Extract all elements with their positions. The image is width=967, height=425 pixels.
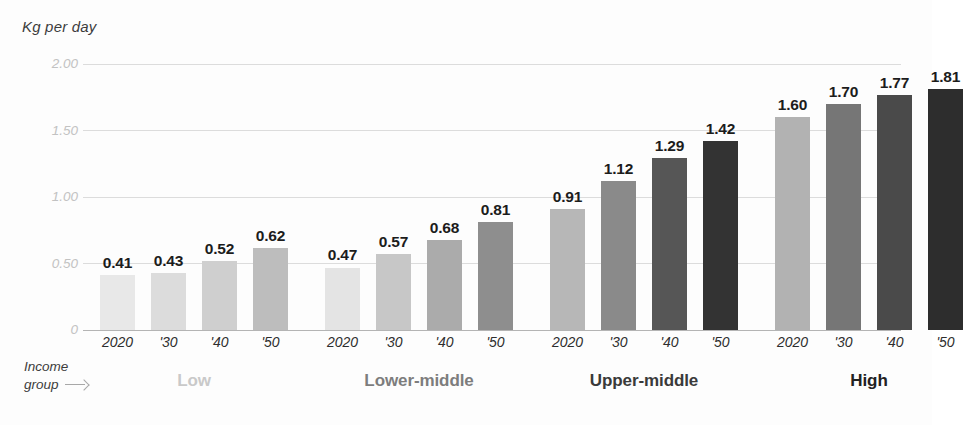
bar-value-label: 1.42 <box>694 120 747 138</box>
x-tick-label: '50 <box>468 334 523 350</box>
bar <box>826 104 861 330</box>
bar <box>253 248 288 330</box>
bar <box>652 158 687 330</box>
y-tick-label: 1.50 <box>8 124 78 138</box>
bar <box>550 209 585 330</box>
bar <box>325 268 360 331</box>
income-group-caption: Income group <box>24 358 91 394</box>
bar <box>478 222 513 330</box>
bar-value-label: 1.81 <box>919 68 967 86</box>
x-tick-label: '40 <box>192 334 247 350</box>
y-tick-label: 1.00 <box>8 190 78 204</box>
bar-value-label: 0.52 <box>193 240 246 258</box>
bar <box>376 254 411 330</box>
x-tick-label: '50 <box>243 334 298 350</box>
x-tick-label: '40 <box>417 334 472 350</box>
bar <box>703 141 738 330</box>
bar-value-label: 0.68 <box>418 219 471 237</box>
y-tick-label: 0.50 <box>8 257 78 271</box>
income-caption-line1: Income <box>24 358 91 376</box>
group-label-high: High <box>735 371 967 391</box>
bar <box>601 181 636 330</box>
x-tick-label: '40 <box>642 334 697 350</box>
bar-value-label: 0.57 <box>367 233 420 251</box>
bar <box>877 95 912 330</box>
x-tick-label: '30 <box>816 334 871 350</box>
bar-value-label: 1.12 <box>592 160 645 178</box>
bar <box>100 275 135 330</box>
bar <box>151 273 186 330</box>
gridline-2.00 <box>83 64 901 65</box>
income-caption-line2: group <box>24 376 59 394</box>
bar-value-label: 1.77 <box>868 74 921 92</box>
bar <box>775 117 810 330</box>
x-tick-label: 2020 <box>540 334 595 350</box>
bar-value-label: 0.41 <box>91 254 144 272</box>
bar-value-label: 0.43 <box>142 252 195 270</box>
bar-value-label: 0.62 <box>244 227 297 245</box>
x-tick-label: '50 <box>693 334 748 350</box>
bar-value-label: 0.91 <box>541 188 594 206</box>
bar <box>427 240 462 330</box>
x-tick-label: 2020 <box>90 334 145 350</box>
bar-value-label: 1.29 <box>643 137 696 155</box>
arrow-right-icon <box>65 380 91 390</box>
bar <box>202 261 237 330</box>
x-tick-label: '50 <box>918 334 967 350</box>
bar-value-label: 1.70 <box>817 83 870 101</box>
x-tick-label: '30 <box>366 334 421 350</box>
x-tick-label: 2020 <box>315 334 370 350</box>
x-tick-label: '30 <box>141 334 196 350</box>
y-tick-label: 0 <box>8 323 78 337</box>
x-tick-label: 2020 <box>765 334 820 350</box>
bar-value-label: 0.81 <box>469 201 522 219</box>
y-tick-label: 2.00 <box>8 57 78 71</box>
bar-value-label: 1.60 <box>766 96 819 114</box>
x-tick-label: '30 <box>591 334 646 350</box>
bar-value-label: 0.47 <box>316 246 369 264</box>
x-tick-label: '40 <box>867 334 922 350</box>
bar <box>928 89 963 330</box>
